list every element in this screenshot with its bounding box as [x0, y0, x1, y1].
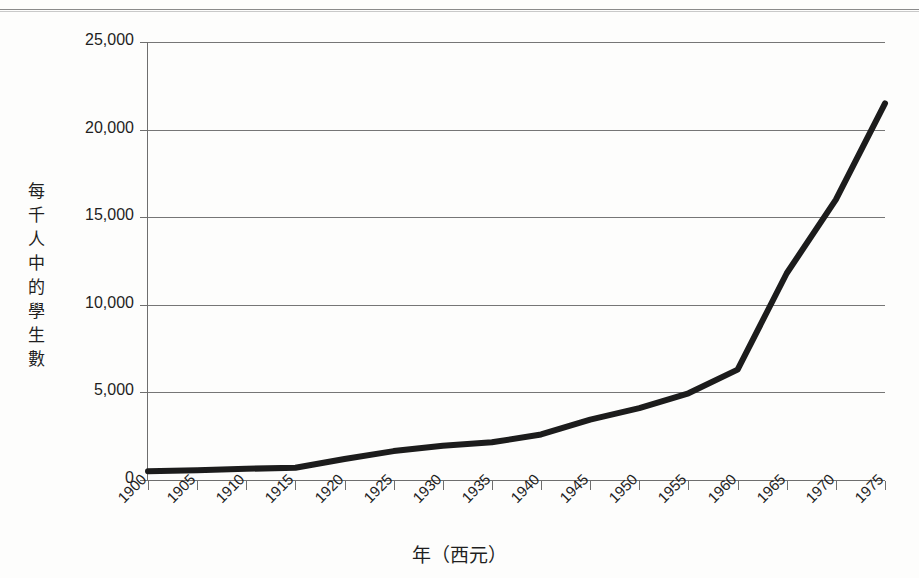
- y-axis-tick-label: 10,000: [30, 294, 134, 312]
- gridline-y: [148, 392, 885, 393]
- y-axis-tick-label: 25,000: [30, 31, 134, 49]
- y-axis-title-char: 人: [24, 228, 48, 252]
- y-axis-tick-label: 15,000: [30, 206, 134, 224]
- y-axis-title-char: 生: [24, 324, 48, 348]
- gridline-y: [148, 217, 885, 218]
- y-axis-title-char: 數: [24, 348, 48, 372]
- gridline-y: [148, 305, 885, 306]
- y-axis-title-char: 每: [24, 180, 48, 204]
- y-axis-tick-label: 20,000: [30, 119, 134, 137]
- y-axis-title-char: 中: [24, 252, 48, 276]
- chart-page: 每 千 人 中 的 學 生 數 05,00010,00015,00020,000…: [0, 0, 919, 578]
- y-axis-tick-label: 0: [30, 469, 134, 487]
- plot-area: [148, 42, 885, 480]
- gridline-y: [148, 42, 885, 43]
- y-axis-line: [147, 42, 148, 481]
- x-axis-title: 年（西元）: [0, 540, 919, 567]
- gridline-y: [148, 130, 885, 131]
- line-chart: 每 千 人 中 的 學 生 數 05,00010,00015,00020,000…: [0, 0, 919, 578]
- y-axis-tick-label: 5,000: [30, 381, 134, 399]
